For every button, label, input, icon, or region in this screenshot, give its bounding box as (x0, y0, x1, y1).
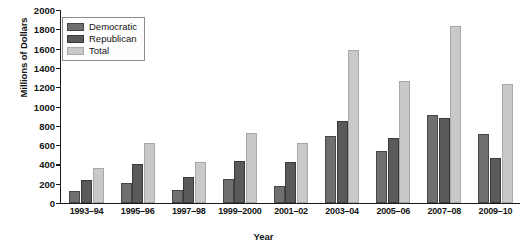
bar-democratic-1997-98 (172, 190, 183, 204)
bar-democratic-2007-08 (427, 115, 438, 203)
bar-total-2009-10 (502, 84, 513, 203)
legend-swatch-democratic (67, 23, 84, 31)
y-tick-label: 1000 (11, 103, 55, 113)
bar-chart-figure: Millions of Dollars Year 200018001600140… (0, 0, 527, 251)
y-tick-label: 600 (11, 141, 55, 151)
y-tick (56, 203, 61, 204)
x-tick-label: 2001–02 (274, 206, 308, 216)
bar-republican-2007-08 (439, 118, 450, 203)
bar-democratic-2009-10 (478, 134, 489, 203)
bar-group (223, 10, 257, 203)
y-tick-label: 800 (11, 122, 55, 132)
bar-group (478, 10, 512, 203)
bar-republican-2009-10 (490, 158, 501, 203)
bar-group (376, 10, 410, 203)
bar-total-1999-2000 (246, 133, 257, 203)
y-tick (56, 107, 61, 108)
legend-label-republican: Republican (89, 34, 137, 44)
y-tick-label: 1400 (11, 64, 55, 74)
bar-republican-1995-96 (132, 164, 143, 203)
bar-republican-2001-02 (285, 162, 296, 203)
legend-swatch-republican (67, 35, 84, 43)
legend-item-democratic: Democratic (67, 21, 137, 33)
y-tick (56, 87, 61, 88)
bar-democratic-1993-94 (69, 191, 80, 203)
chart-legend: Democratic Republican Total (62, 17, 145, 61)
y-tick (56, 10, 61, 11)
y-tick (56, 184, 61, 185)
legend-item-republican: Republican (67, 33, 137, 45)
bar-democratic-1995-96 (121, 183, 132, 203)
y-tick-label: 2000 (11, 6, 55, 16)
bar-total-2001-02 (297, 143, 308, 203)
bar-republican-2005-06 (388, 138, 399, 203)
y-tick (56, 29, 61, 30)
bar-group (274, 10, 308, 203)
y-tick (56, 126, 61, 127)
y-tick-label: 1600 (11, 45, 55, 55)
y-tick-label: 0 (11, 199, 55, 209)
y-tick (56, 145, 61, 146)
legend-label-total: Total (89, 46, 109, 56)
x-tick-label: 2005–06 (376, 206, 410, 216)
bar-total-1997-98 (195, 162, 206, 203)
x-tick-label: 1999–2000 (218, 206, 261, 216)
bar-group (427, 10, 461, 203)
y-tick (56, 49, 61, 50)
x-tick-label: 2007–08 (428, 206, 462, 216)
bar-republican-1993-94 (81, 180, 92, 203)
x-tick-label: 1993–94 (70, 206, 104, 216)
x-axis-line (60, 203, 520, 204)
bar-democratic-2005-06 (376, 151, 387, 203)
bar-group (325, 10, 359, 203)
y-tick (56, 68, 61, 69)
bar-democratic-2001-02 (274, 186, 285, 203)
x-tick-label: 2003–04 (325, 206, 359, 216)
bar-total-2005-06 (399, 81, 410, 203)
bar-total-1995-96 (144, 143, 155, 203)
x-tick-label: 1997–98 (172, 206, 206, 216)
legend-swatch-total (67, 47, 84, 55)
y-tick-label: 400 (11, 160, 55, 170)
bar-total-2007-08 (450, 26, 461, 203)
x-tick-label: 1995–96 (121, 206, 155, 216)
bar-group (172, 10, 206, 203)
y-tick-label: 1800 (11, 25, 55, 35)
y-tick-label: 200 (11, 180, 55, 190)
bar-republican-1997-98 (183, 177, 194, 203)
x-tick-label: 2009–10 (479, 206, 513, 216)
x-axis-title: Year (0, 231, 527, 242)
bar-total-1993-94 (93, 168, 104, 203)
bar-total-2003-04 (348, 50, 359, 203)
y-tick (56, 164, 61, 165)
y-tick-label: 1200 (11, 83, 55, 93)
bar-democratic-2003-04 (325, 136, 336, 203)
legend-label-democratic: Democratic (89, 22, 137, 32)
bar-democratic-1999-2000 (223, 179, 234, 203)
bar-republican-1999-2000 (234, 161, 245, 203)
bar-republican-2003-04 (337, 121, 348, 204)
legend-item-total: Total (67, 45, 137, 57)
